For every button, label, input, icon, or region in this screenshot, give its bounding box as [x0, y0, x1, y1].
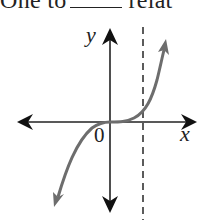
function-graph: y x 0	[0, 0, 215, 220]
x-axis-label: x	[179, 121, 190, 146]
y-axis-label: y	[84, 22, 96, 47]
origin-label: 0	[94, 123, 105, 147]
curve	[53, 39, 169, 207]
